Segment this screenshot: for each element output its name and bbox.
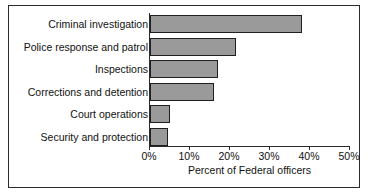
x-tick-label: 50% — [338, 150, 359, 162]
bar-row: Court operations — [9, 105, 359, 123]
category-label: Court operations — [70, 105, 148, 123]
x-axis-label: Percent of Federal officers — [149, 164, 350, 176]
bar-row: Criminal investigation — [9, 15, 359, 33]
bar — [150, 15, 302, 33]
category-label: Criminal investigation — [48, 15, 148, 33]
bar-chart-plot: Criminal investigation Police response a… — [9, 6, 359, 187]
category-label: Corrections and detention — [28, 83, 148, 101]
x-tick-label: 10% — [178, 150, 199, 162]
category-label: Police response and patrol — [24, 38, 148, 56]
bar — [150, 38, 236, 56]
x-axis-ticks: 0%10%20%30%40%50% — [9, 147, 359, 161]
category-label: Security and protection — [41, 128, 148, 146]
x-tick-label: 20% — [218, 150, 239, 162]
x-tick-label: 30% — [258, 150, 279, 162]
bar — [150, 105, 170, 123]
bar — [150, 83, 214, 101]
category-label: Inspections — [95, 60, 148, 78]
bar — [150, 128, 168, 146]
x-tick-label: 40% — [298, 150, 319, 162]
bar-row: Police response and patrol — [9, 38, 359, 56]
bar-rows: Criminal investigation Police response a… — [9, 15, 359, 146]
bar-row: Inspections — [9, 60, 359, 78]
x-tick-label: 0% — [141, 150, 156, 162]
bar — [150, 60, 218, 78]
chart-figure: Criminal investigation Police response a… — [8, 5, 360, 188]
bar-row: Security and protection — [9, 128, 359, 146]
bar-row: Corrections and detention — [9, 83, 359, 101]
